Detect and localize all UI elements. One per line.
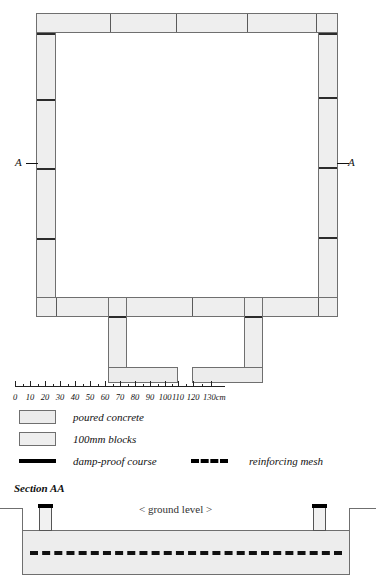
scale-tick-label: 110	[172, 392, 184, 402]
section-wall-stub-right	[313, 506, 326, 531]
scale-tick-minor	[38, 384, 39, 387]
scale-tick-major	[75, 381, 76, 387]
section-marker-left-line	[26, 163, 38, 164]
scale-tick-minor	[202, 384, 203, 387]
section-marker-left-label: A	[15, 156, 22, 168]
wall-left-joint-4	[37, 238, 55, 240]
wall-right-joint-4	[319, 237, 337, 239]
scale-tick-label: 10	[26, 392, 35, 402]
wall-bottom-joint-1	[56, 298, 57, 316]
legend-label-100mm-blocks: 100mm blocks	[73, 431, 136, 447]
scale-tick-major	[30, 381, 31, 387]
scale-tick-major	[211, 381, 212, 387]
wall-right-joint-1	[319, 33, 337, 35]
section-marker-right-label: A	[348, 156, 355, 168]
porch-wall-right	[244, 297, 263, 374]
legend-item-100mm-blocks: 100mm blocks	[19, 431, 219, 447]
scale-tick-major	[120, 381, 121, 387]
scale-tick-minor	[143, 384, 144, 387]
wall-top-joint-2	[176, 14, 177, 32]
wall-right	[318, 33, 338, 312]
scale-tick-major	[60, 381, 61, 387]
section-aa-title: Section AA	[14, 482, 65, 494]
scale-tick-minor	[113, 384, 114, 387]
scale-tick-label: 120	[187, 392, 200, 402]
scale-tick-label: 50	[86, 392, 95, 402]
legend-label-damp-proof-course: damp-proof course	[73, 453, 157, 469]
scale-tick-label: 20	[41, 392, 50, 402]
scale-tick-minor	[53, 384, 54, 387]
ground-line-right	[349, 508, 376, 509]
porch-wall-left-joint	[109, 316, 126, 318]
legend-label-reinforcing-mesh: reinforcing mesh	[249, 453, 323, 469]
scale-tick-minor	[186, 384, 187, 387]
scale-tick-minor	[68, 384, 69, 387]
scale-tick-major	[90, 381, 91, 387]
wall-top-joint-4	[316, 14, 317, 32]
porch-wall-right-joint	[245, 316, 262, 318]
scale-tick-label: 80	[131, 392, 140, 402]
scale-tick-major	[165, 381, 166, 387]
scale-tick-minor	[158, 384, 159, 387]
porch-wall-left	[108, 297, 127, 374]
scale-tick-major	[150, 381, 151, 387]
reinforcing-mesh-line	[30, 551, 342, 555]
wall-top	[36, 13, 338, 33]
scale-tick-labels: 0102030405060708090100110120130cm	[15, 392, 225, 404]
legend-item-damp-proof-course: damp-proof course	[19, 453, 219, 469]
scale-tick-label: 130cm	[203, 392, 226, 402]
wall-left-joint-2	[37, 99, 55, 101]
legend-swatch-damp-proof-course	[19, 459, 56, 463]
scale-tick-label: 40	[71, 392, 80, 402]
scale-tick-major	[135, 381, 136, 387]
scale-tick-label: 30	[56, 392, 65, 402]
scale-tick-minor	[83, 384, 84, 387]
wall-left	[36, 33, 56, 312]
legend-swatch-reinforcing-mesh	[191, 459, 228, 463]
wall-bottom	[36, 297, 338, 317]
legend-item-poured-concrete: poured concrete	[19, 409, 219, 425]
wall-bottom-joint-3	[192, 298, 193, 316]
drawing-canvas: A A 0102030405060708090100110120130cm po…	[0, 0, 376, 581]
scale-tick-major	[15, 381, 16, 387]
scale-bar: 0102030405060708090100110120130cm	[15, 386, 225, 408]
porch-footing-left	[108, 367, 178, 383]
ground-level-label: < ground level >	[139, 503, 212, 515]
scale-tick-label: 0	[13, 392, 17, 402]
wall-top-joint-1	[110, 14, 111, 32]
scale-tick-minor	[128, 384, 129, 387]
scale-tick-minor	[23, 384, 24, 387]
scale-tick-minor	[98, 384, 99, 387]
damp-proof-course-right	[312, 504, 327, 508]
porch-footing-right	[192, 367, 263, 383]
scale-tick-major	[178, 381, 179, 387]
scale-tick-label: 100	[159, 392, 172, 402]
wall-right-joint-2	[319, 97, 337, 99]
wall-top-joint-3	[247, 14, 248, 32]
legend-label-poured-concrete: poured concrete	[73, 409, 144, 425]
legend: poured concrete 100mm blocks damp-proof …	[19, 409, 364, 469]
legend-swatch-100mm-blocks	[19, 432, 56, 446]
wall-bottom-joint-5	[318, 298, 319, 316]
scale-tick-major	[45, 381, 46, 387]
scale-tick-major	[105, 381, 106, 387]
wall-left-joint-1	[37, 33, 55, 35]
scale-tick-label: 60	[101, 392, 110, 402]
wall-left-joint-3	[37, 168, 55, 170]
scale-tick-label: 70	[116, 392, 125, 402]
ground-step-left	[22, 508, 23, 530]
scale-tick-major	[193, 381, 194, 387]
damp-proof-course-left	[38, 504, 53, 508]
ground-line-left	[0, 508, 22, 509]
wall-right-joint-3	[319, 167, 337, 169]
section-wall-stub-left	[39, 506, 52, 531]
legend-swatch-poured-concrete	[19, 410, 56, 424]
ground-step-right	[349, 508, 350, 530]
legend-item-reinforcing-mesh: reinforcing mesh	[191, 453, 361, 469]
scale-tick-minor	[172, 384, 173, 387]
scale-tick-label: 90	[146, 392, 155, 402]
